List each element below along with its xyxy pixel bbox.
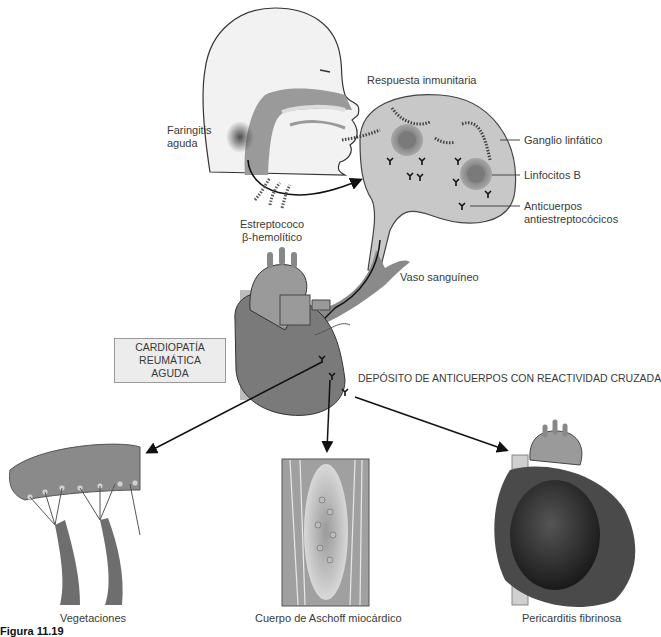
label-anticuerpos-line1: Anticuerpos bbox=[524, 200, 618, 213]
label-ganglio: Ganglio linfático bbox=[524, 134, 602, 147]
label-estreptococo: Estreptococo β-hemolítico bbox=[240, 218, 304, 244]
label-faringitis: Faringitis aguda bbox=[167, 124, 212, 150]
label-anticuerpos: Anticuerpos antiestreptocócicos bbox=[524, 200, 618, 226]
label-cardiopatia-box: CARDIOPATÍA REUMÁTICA AGUDA bbox=[114, 338, 226, 383]
label-cardiopatia-line2: REUMÁTICA AGUDA bbox=[121, 354, 219, 380]
aschoff-body-tissue bbox=[282, 459, 369, 606]
label-vegetaciones: Vegetaciones bbox=[60, 612, 126, 625]
label-linfocitos: Linfocitos B bbox=[524, 169, 581, 182]
label-pericarditis: Pericarditis fibrinosa bbox=[522, 612, 621, 625]
label-faringitis-line2: aguda bbox=[167, 137, 212, 150]
valve-vegetations bbox=[10, 444, 140, 605]
label-anticuerpos-line2: antiestreptocócicos bbox=[524, 213, 618, 226]
label-estreptococo-line2: β-hemolítico bbox=[240, 231, 304, 244]
heart-illustration bbox=[235, 250, 350, 415]
label-vaso: Vaso sanguíneo bbox=[400, 271, 479, 284]
figure-caption: Figura 11.19 bbox=[0, 625, 64, 637]
label-deposito: DEPÓSITO DE ANTICUERPOS CON REACTIVIDAD … bbox=[358, 372, 661, 385]
label-aschoff: Cuerpo de Aschoff miocárdico bbox=[255, 612, 402, 625]
label-cardiopatia-line1: CARDIOPATÍA bbox=[121, 341, 219, 354]
streptococcus-icon bbox=[255, 178, 290, 208]
label-respuesta: Respuesta inmunitaria bbox=[367, 74, 476, 87]
label-estreptococo-line1: Estreptococo bbox=[240, 218, 304, 231]
head-illustration bbox=[203, 8, 359, 175]
label-faringitis-line1: Faringitis bbox=[167, 124, 212, 137]
pericarditis-heart bbox=[494, 422, 635, 607]
